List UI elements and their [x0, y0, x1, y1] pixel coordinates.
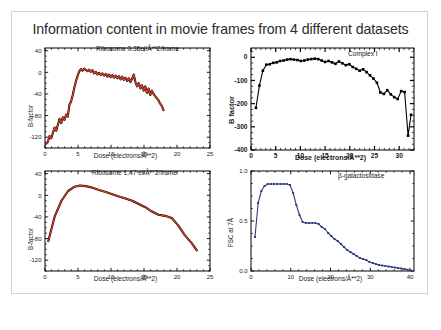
series-title-br: β-galactosidase [338, 172, 384, 179]
svg-text:40: 40 [35, 171, 42, 177]
svg-text:-120: -120 [29, 257, 42, 263]
y-axis-label-tl: B-factor [27, 105, 34, 127]
svg-text:-80: -80 [33, 113, 42, 119]
x-axis-label-br: Dose (electrons/Å**2) [243, 275, 418, 282]
svg-text:0: 0 [38, 193, 42, 199]
chart-panel-ribosome-low-dose: B-factor Ribosome 0.35el/Å**2/frame Dose… [18, 42, 218, 162]
svg-text:0: 0 [38, 70, 42, 76]
svg-text:-200: -200 [234, 100, 248, 107]
series-title-bl: Ribosome 1.47 el/Å**2/frame [92, 169, 177, 176]
series-title-tl: Ribosome 0.35el/Å**2/frame [96, 45, 179, 52]
svg-text:1.0: 1.0 [239, 168, 248, 174]
svg-text:0: 0 [244, 53, 248, 60]
svg-text:-400: -400 [234, 146, 248, 153]
svg-text:-100: -100 [234, 77, 248, 84]
figure-title: Information content in movie frames from… [12, 21, 429, 37]
svg-text:40: 40 [35, 48, 42, 54]
y-axis-label-bl: B-factor [27, 228, 34, 250]
x-axis-label-bl: Dose (electrons/Å**2) [38, 275, 213, 282]
svg-text:-80: -80 [33, 236, 42, 242]
plot-area-br: 0102030401.00.50.0 [218, 165, 426, 290]
plot-area-tl: 0510152025400-40-80-120 [18, 42, 218, 162]
svg-text:-40: -40 [33, 91, 42, 97]
svg-text:0.0: 0.0 [239, 268, 248, 274]
svg-text:-40: -40 [33, 214, 42, 220]
chart-panel-beta-galactosidase: FSC at 7Å β-galactosidase Dose (electron… [218, 165, 426, 290]
y-axis-label-br: FSC at 7Å [227, 218, 234, 247]
x-axis-label-tl: Dose (electrons/Å**2) [38, 152, 213, 159]
chart-panel-ribosome-high-dose: B-factor Ribosome 1.47 el/Å**2/frame Dos… [18, 165, 218, 290]
plot-area-bl: 0510152025400-40-80-120 [18, 165, 218, 290]
y-axis-label-tr: B factor [227, 96, 236, 124]
chart-panel-complex-i: B factor Complex I Dose (electrons/Å**2)… [218, 42, 426, 167]
svg-text:-300: -300 [234, 123, 248, 130]
plot-area-tr: 0510152025300-100-200-300-400 [218, 42, 426, 167]
series-title-tr: Complex I [348, 50, 378, 57]
x-axis-label-tr: Dose (electrons/Å**2) [243, 154, 418, 161]
svg-text:0.5: 0.5 [239, 218, 248, 224]
svg-text:-120: -120 [29, 134, 42, 140]
figure-card: Information content in movie frames from… [11, 11, 428, 294]
